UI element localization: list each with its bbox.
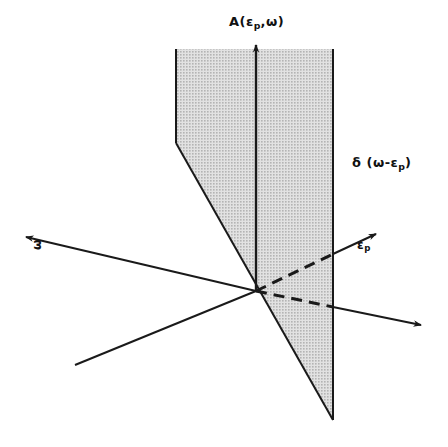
delta-function-label-tail: ) xyxy=(405,155,411,170)
delta-function-label: δ (ω-εp) xyxy=(352,155,412,172)
omega-axis xyxy=(26,237,256,291)
vertical-axis-label: A(εp,ω) xyxy=(229,14,284,31)
spectral-function-figure: A(εp,ω) εp ω δ (ω-εp) xyxy=(0,0,448,447)
delta-function-label-base: δ (ω-ε xyxy=(352,155,398,170)
figure-canvas xyxy=(0,0,448,447)
epsilon-p-axis-label-sub: p xyxy=(364,243,370,253)
epsilon-p-axis-label: εp xyxy=(357,238,370,253)
omega-negative-axis xyxy=(75,291,256,365)
vertical-axis-label-tail: ,ω) xyxy=(260,14,284,29)
delta-function-sheet xyxy=(176,49,333,420)
omega-axis-label: ω xyxy=(30,239,44,250)
epsilon-p-negative-axis xyxy=(333,307,421,325)
vertical-axis-label-base: A( xyxy=(229,14,246,29)
